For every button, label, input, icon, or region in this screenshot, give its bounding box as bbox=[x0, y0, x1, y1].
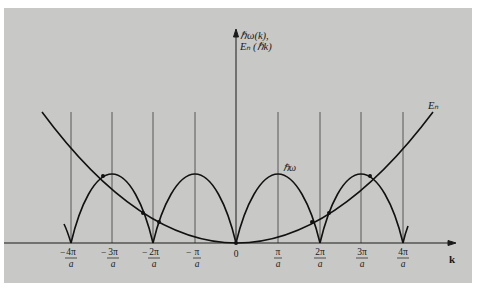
axes bbox=[4, 29, 456, 246]
electron-curve-label: Eₙ bbox=[427, 100, 439, 111]
tick-numerator: 4π bbox=[66, 247, 76, 257]
phonon-curve-label: ℏω bbox=[283, 162, 296, 173]
tick-numerator: 2π bbox=[149, 247, 159, 257]
tick-numerator: 4π bbox=[398, 247, 408, 257]
tick-labels: − 4π a − 3π a − 2π a − π a 0 π a 2π a 3π bbox=[60, 247, 409, 269]
y-axis-arrow-icon bbox=[234, 29, 239, 37]
x-axis-arrow-icon bbox=[448, 241, 456, 246]
tick-numerator: 3π bbox=[357, 247, 367, 257]
tick-denominator: a bbox=[69, 259, 74, 269]
arch-right-stub bbox=[403, 226, 408, 243]
tick-denominator: a bbox=[318, 259, 323, 269]
tick-numerator: π bbox=[276, 247, 281, 257]
arch-minus-pi bbox=[153, 174, 236, 243]
tick-numerator: 2π bbox=[315, 247, 325, 257]
x-axis-label: k bbox=[449, 253, 456, 265]
tick-zero: 0 bbox=[234, 249, 239, 259]
tick-denominator: a bbox=[152, 259, 157, 269]
arch-3pi bbox=[320, 174, 403, 243]
tick-denominator: a bbox=[276, 259, 281, 269]
figure: ℏω(k), Eₙ (ℏk) Eₙ ℏω k − 4π a − 3π a − 2… bbox=[0, 0, 477, 289]
y-axis-label-line2: Eₙ (ℏk) bbox=[239, 41, 272, 53]
arch-left-stub bbox=[64, 224, 71, 243]
tick-denominator: a bbox=[195, 259, 200, 269]
tick-sign: − bbox=[101, 248, 106, 258]
tick-denominator: a bbox=[401, 259, 406, 269]
tick-numerator: π bbox=[195, 247, 200, 257]
tick-sign: − bbox=[186, 248, 191, 258]
tick-denominator: a bbox=[111, 259, 116, 269]
tick-sign: − bbox=[142, 248, 147, 258]
dispersion-plot: ℏω(k), Eₙ (ℏk) Eₙ ℏω k − 4π a − 3π a − 2… bbox=[0, 0, 477, 289]
electron-energy-parabola bbox=[42, 112, 433, 243]
tick-sign: − bbox=[60, 248, 65, 258]
tick-denominator: a bbox=[360, 259, 365, 269]
tick-numerator: 3π bbox=[108, 247, 118, 257]
